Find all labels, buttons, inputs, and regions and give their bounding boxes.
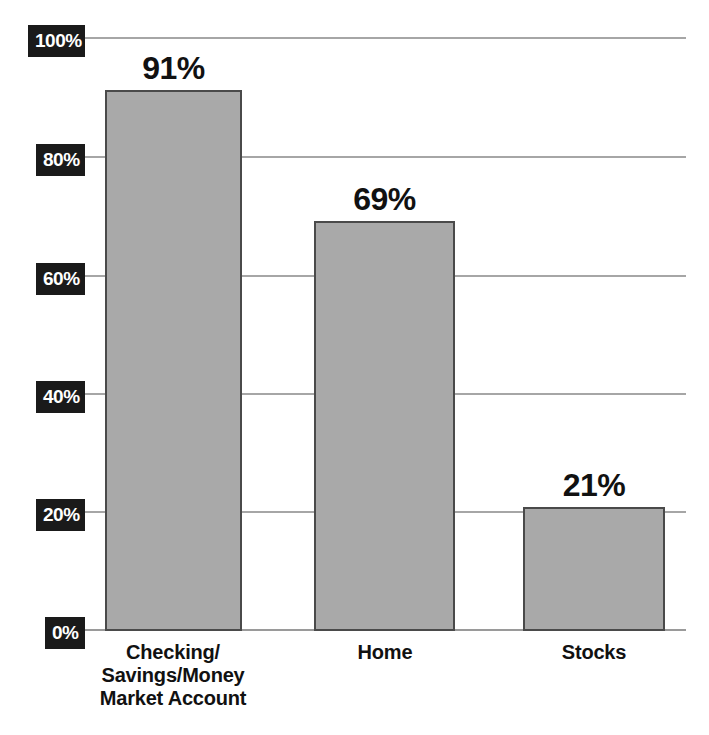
y-axis-tick-60: 60% xyxy=(36,263,85,295)
bar-value-label-checking: 91% xyxy=(105,52,242,84)
y-axis-tick-80: 80% xyxy=(36,144,85,176)
bar-checking-savings-money-market-account xyxy=(105,90,242,631)
y-axis-tick-40: 40% xyxy=(36,381,85,413)
bar-chart: 91% 69% 21% 100% 80% 60% 40% 20% 0% Chec… xyxy=(0,0,709,735)
y-axis-tick-20: 20% xyxy=(36,499,85,531)
x-axis-category-label-stocks-line-1: Stocks xyxy=(509,641,679,664)
y-axis-tick-100: 100% xyxy=(28,25,85,57)
x-axis-category-label-checking-line-2: Savings/Money xyxy=(78,664,268,687)
x-axis-category-label-checking-line-3: Market Account xyxy=(78,687,268,710)
x-axis-category-label-stocks: Stocks xyxy=(509,641,679,664)
bar-stocks xyxy=(523,507,665,631)
x-axis-category-label-home: Home xyxy=(300,641,470,664)
bar-value-label-home: 69% xyxy=(314,183,455,215)
x-axis-category-label-home-line-1: Home xyxy=(300,641,470,664)
bar-value-label-stocks: 21% xyxy=(523,469,665,501)
bar-home xyxy=(314,221,455,631)
gridline-100 xyxy=(62,37,686,39)
plot-area: 91% 69% 21% 100% 80% 60% 40% 20% 0% Chec… xyxy=(0,0,709,735)
x-axis-category-label-checking-line-1: Checking/ xyxy=(78,641,268,664)
x-axis-category-label-checking: Checking/ Savings/Money Market Account xyxy=(78,641,268,710)
